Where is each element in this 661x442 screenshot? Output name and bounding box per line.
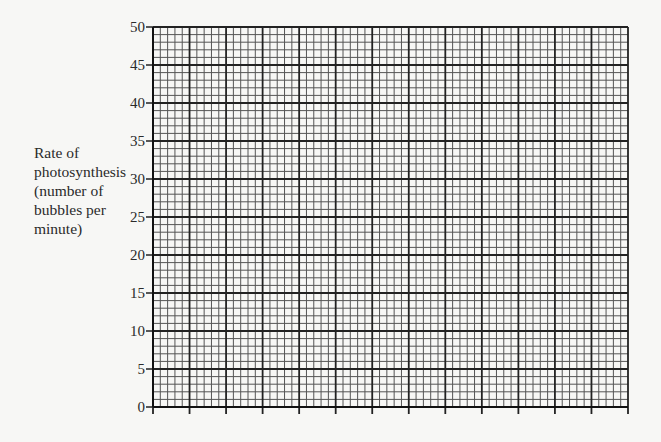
y-tick-labels: 05101520253035404550 <box>130 19 145 415</box>
graph-paper-plot: 05101520253035404550 <box>0 0 661 442</box>
y-tick-label: 30 <box>130 171 145 187</box>
y-tick-label: 0 <box>138 399 146 415</box>
y-tick-label: 10 <box>130 323 145 339</box>
y-tick-label: 5 <box>138 361 146 377</box>
y-tick-label: 50 <box>130 19 145 35</box>
y-tick-label: 35 <box>130 133 145 149</box>
y-tick-label: 45 <box>130 57 145 73</box>
y-tick-label: 40 <box>130 95 145 111</box>
y-tick-label: 20 <box>130 247 145 263</box>
y-tick-label: 25 <box>130 209 145 225</box>
y-tick-label: 15 <box>130 285 145 301</box>
major-grid <box>153 27 628 407</box>
